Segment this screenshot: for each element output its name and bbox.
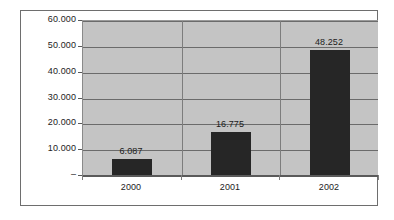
value-label-2001: 16.775: [190, 119, 270, 129]
bar-2002: [310, 50, 350, 175]
x-axis-tick-2: [279, 175, 280, 180]
gridline-60000: [83, 21, 378, 22]
y-tick-label-60000: 60.000: [20, 14, 76, 24]
category-separator-2: [280, 21, 281, 175]
bar-2000: [112, 159, 152, 175]
x-tick-label-2002: 2002: [289, 182, 369, 192]
bar-2001: [211, 132, 251, 175]
y-tick-label-20000: 20.000: [20, 117, 76, 127]
x-tick-label-2001: 2001: [190, 182, 270, 192]
bar-chart-figure: –10.00020.00030.00040.00050.00060.000 6.…: [0, 0, 394, 220]
y-tick-label-50000: 50.000: [20, 40, 76, 50]
x-axis-tick-0: [82, 175, 83, 180]
y-tick-label-10000: 10.000: [20, 143, 76, 153]
gridline-0: [83, 176, 378, 177]
value-label-2000: 6.087: [91, 146, 171, 156]
value-label-2002: 48.252: [289, 37, 369, 47]
gridline-50000: [83, 47, 378, 48]
x-axis-line: [82, 175, 378, 176]
x-axis-tick-1: [181, 175, 182, 180]
y-tick-label-0: –: [20, 169, 76, 179]
category-separator-1: [182, 21, 183, 175]
x-axis-category-labels: 200020012002: [82, 182, 378, 198]
y-axis-tick-labels: –10.00020.00030.00040.00050.00060.000: [18, 0, 76, 220]
y-tick-label-40000: 40.000: [20, 66, 76, 76]
x-axis-tick-3: [378, 175, 379, 180]
y-tick-label-30000: 30.000: [20, 92, 76, 102]
x-tick-label-2000: 2000: [91, 182, 171, 192]
